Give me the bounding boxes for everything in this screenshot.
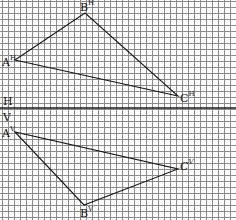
label-b-h: BH [80,1,94,13]
label-a-v: AV [2,127,15,139]
label-a-h: AH [2,56,16,68]
label-c-v: CV [180,160,193,172]
triangle-horizontal-projection [15,13,178,96]
label-c-h: CH [180,92,195,104]
diagram-lines [0,0,236,220]
axis-label-h: H [3,96,13,107]
label-b-v: BV [80,207,93,219]
projection-diagram: H V AH BH CH AV BV CV [0,0,236,220]
triangle-vertical-projection [15,132,178,205]
axis-label-v: V [3,112,11,123]
